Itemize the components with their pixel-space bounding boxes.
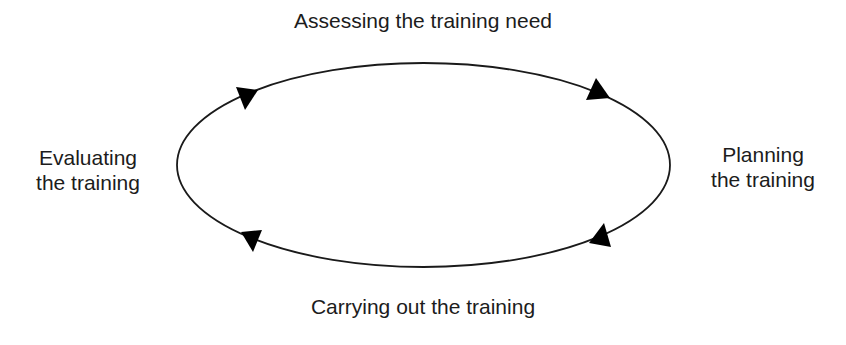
stage-label-line: the training — [680, 167, 846, 192]
stage-label-evaluating: Evaluating the training — [0, 145, 176, 195]
arrow-icon-bottom-right — [589, 223, 611, 247]
stage-label-line: Planning — [680, 142, 846, 167]
stage-label-carrying-out: Carrying out the training — [0, 294, 846, 319]
stage-label-line: Carrying out the training — [0, 294, 846, 319]
stage-label-line: Assessing the training need — [0, 8, 846, 33]
training-cycle-diagram: Assessing the training need Planning the… — [0, 0, 846, 345]
stage-label-line: the training — [0, 170, 176, 195]
arrow-icon-top-left — [236, 87, 258, 110]
stage-label-line: Evaluating — [0, 145, 176, 170]
stage-label-planning: Planning the training — [680, 142, 846, 192]
stage-label-assessing: Assessing the training need — [0, 8, 846, 33]
